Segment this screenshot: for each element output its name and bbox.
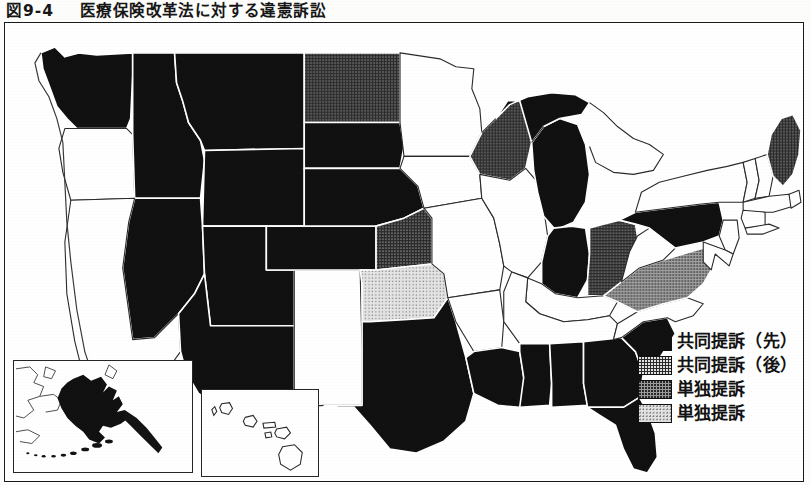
map-legend: 共同提訴（先） 共同提訴（後） 単独提訴 単独提訴 — [638, 329, 797, 425]
legend-label-joint-first: 共同提訴（先） — [677, 332, 797, 351]
legend-item-joint-first: 共同提訴（先） — [638, 329, 797, 353]
legend-item-solo-a: 単独提訴 — [638, 377, 797, 401]
state-NM — [294, 270, 362, 407]
figure-number: 図9-4 — [6, 0, 54, 20]
island-lanai — [265, 432, 272, 438]
figure-caption: 図9-4 医療保険改革法に対する違憲訴訟 — [6, 0, 326, 20]
state-MS — [520, 344, 552, 408]
legend-swatch-solo-a — [638, 380, 672, 399]
legend-swatch-solo-b — [638, 404, 672, 423]
state-AL — [550, 342, 588, 408]
state-OR — [59, 129, 135, 201]
state-MN — [400, 53, 482, 157]
figure-page: 図9-4 医療保険改革法に対する違憲訴訟 — [0, 0, 810, 485]
legend-item-joint-later: 共同提訴（後） — [638, 353, 797, 377]
island-molokai — [263, 422, 276, 428]
legend-label-solo-b: 単独提訴 — [677, 404, 746, 423]
state-CO — [266, 226, 376, 270]
hawaii-map — [202, 390, 318, 476]
legend-label-joint-later: 共同提訴（後） — [677, 356, 797, 375]
state-SD — [304, 123, 404, 169]
figure-title: 医療保険改革法に対する違憲訴訟 — [80, 0, 326, 20]
legend-swatch-joint-first — [638, 332, 672, 351]
legend-swatch-joint-later — [638, 356, 672, 375]
state-IN — [542, 226, 590, 298]
legend-label-solo-a: 単独提訴 — [677, 380, 746, 399]
state-OK — [360, 264, 448, 322]
state-ND — [304, 53, 400, 123]
alaska-inset — [13, 360, 193, 473]
legend-item-solo-b: 単独提訴 — [638, 401, 797, 425]
alaska-map — [14, 361, 192, 472]
state-WY — [203, 148, 305, 226]
hawaii-inset — [201, 389, 319, 477]
map-frame: 共同提訴（先） 共同提訴（後） 単独提訴 単独提訴 — [4, 22, 804, 482]
